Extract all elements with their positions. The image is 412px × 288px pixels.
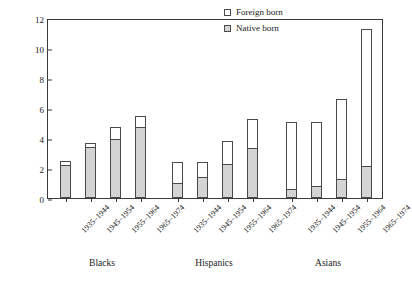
y-axis-tick-label: 12 — [35, 15, 48, 25]
y-axis-tick-label: 6 — [40, 105, 49, 115]
bar-blacks-1945-1954 — [85, 143, 96, 199]
y-axis-tick-2: 2 — [40, 165, 49, 175]
group-label-hispanics: Hispanics — [174, 258, 254, 268]
bar-segment-foreign-born — [110, 127, 121, 139]
bar-blacks-1935-1944 — [60, 161, 71, 199]
bar-segment-foreign-born — [197, 162, 208, 177]
plot-area: 024681012 — [47, 19, 383, 199]
y-axis-tick-4: 4 — [40, 135, 49, 145]
x-axis-tick-mark — [178, 198, 179, 202]
bar-hispanics-1955-1964 — [222, 141, 233, 198]
bar-segment-native-born — [172, 183, 183, 198]
group-label-asians: Asians — [288, 258, 368, 268]
group-label-blacks: Blacks — [62, 258, 142, 268]
y-axis-title-wrap: Percent of occupational cohort — [13, 19, 27, 199]
bar-segment-native-born — [222, 164, 233, 198]
x-axis-tick-mark — [253, 198, 254, 202]
y-axis-tick-8: 8 — [40, 75, 49, 85]
x-axis-tick-mark — [317, 198, 318, 202]
bar-segment-native-born — [60, 165, 71, 198]
bar-segment-foreign-born — [172, 162, 183, 183]
bar-blacks-1965-1974 — [135, 116, 146, 199]
bar-asians-1945-1954 — [311, 122, 322, 199]
bar-segment-native-born — [110, 139, 121, 198]
bar-segment-native-born — [361, 166, 372, 198]
bar-asians-1965-1974 — [361, 29, 372, 199]
y-axis-tick-label: 8 — [40, 75, 49, 85]
legend-swatch-foreign-born-icon — [224, 9, 231, 16]
bar-hispanics-1935-1944 — [172, 162, 183, 198]
y-axis-tick-12: 12 — [35, 15, 48, 25]
x-axis-tick-mark — [292, 198, 293, 202]
bar-segment-foreign-born — [336, 99, 347, 179]
y-axis-tick-6: 6 — [40, 105, 49, 115]
y-axis-tick-mark — [48, 200, 52, 201]
y-axis-tick-0: 0 — [40, 195, 49, 205]
bar-segment-native-born — [286, 189, 297, 198]
bar-segment-foreign-born — [222, 141, 233, 164]
y-axis-tick-label: 10 — [35, 45, 48, 55]
bar-segment-foreign-born — [247, 119, 258, 148]
x-axis-tick-mark — [203, 198, 204, 202]
x-axis-tick-mark — [367, 198, 368, 202]
bar-segment-foreign-born — [135, 116, 146, 127]
x-axis-tick-mark — [228, 198, 229, 202]
x-axis-tick-mark — [141, 198, 142, 202]
bar-hispanics-1965-1974 — [247, 119, 258, 199]
bar-segment-native-born — [197, 177, 208, 198]
legend-item-native-born: Native born — [224, 22, 283, 35]
bar-segment-foreign-born — [311, 122, 322, 187]
bar-segment-native-born — [336, 179, 347, 198]
bar-segment-native-born — [85, 147, 96, 198]
y-axis-tick-label: 2 — [40, 165, 49, 175]
bar-segment-native-born — [247, 148, 258, 198]
bar-segment-native-born — [135, 127, 146, 198]
bar-segment-foreign-born — [286, 122, 297, 190]
y-axis-tick-10: 10 — [35, 45, 48, 55]
legend-label-foreign-born: Foreign born — [236, 6, 283, 19]
x-axis-tick-mark — [66, 198, 67, 202]
bar-segment-foreign-born — [361, 29, 372, 166]
bar-asians-1955-1964 — [336, 99, 347, 198]
x-axis-tick-mark — [91, 198, 92, 202]
bar-asians-1935-1944 — [286, 122, 297, 199]
bars-layer — [48, 20, 382, 198]
x-axis-tick-mark — [342, 198, 343, 202]
y-axis-tick-label: 4 — [40, 135, 49, 145]
legend-swatch-native-born-icon — [224, 25, 231, 32]
legend-label-native-born: Native born — [236, 22, 279, 35]
bar-segment-native-born — [311, 186, 322, 198]
y-axis-tick-label: 0 — [40, 195, 49, 205]
legend: Foreign born Native born — [224, 6, 283, 38]
bar-hispanics-1945-1954 — [197, 162, 208, 198]
x-axis-tick-mark — [116, 198, 117, 202]
legend-item-foreign-born: Foreign born — [224, 6, 283, 19]
bar-blacks-1955-1964 — [110, 127, 121, 198]
